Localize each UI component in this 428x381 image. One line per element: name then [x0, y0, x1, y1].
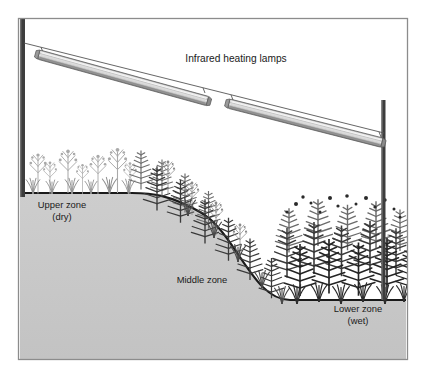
left-support-post — [20, 19, 25, 197]
lower-zone-label-line1: Lower zone — [334, 303, 382, 314]
figure-root: Infrared heating lamps Upper zone (dry) … — [0, 0, 428, 381]
right-support-post — [382, 100, 386, 300]
lamps-title-label: Infrared heating lamps — [185, 53, 286, 64]
lower-zone-label-line2: (wet) — [348, 315, 369, 326]
upper-zone-label-line2: (dry) — [52, 211, 71, 222]
diagram-canvas: Infrared heating lamps Upper zone (dry) … — [0, 0, 428, 381]
upper-zone-label-line1: Upper zone — [38, 199, 86, 210]
middle-zone-label: Middle zone — [177, 274, 228, 285]
